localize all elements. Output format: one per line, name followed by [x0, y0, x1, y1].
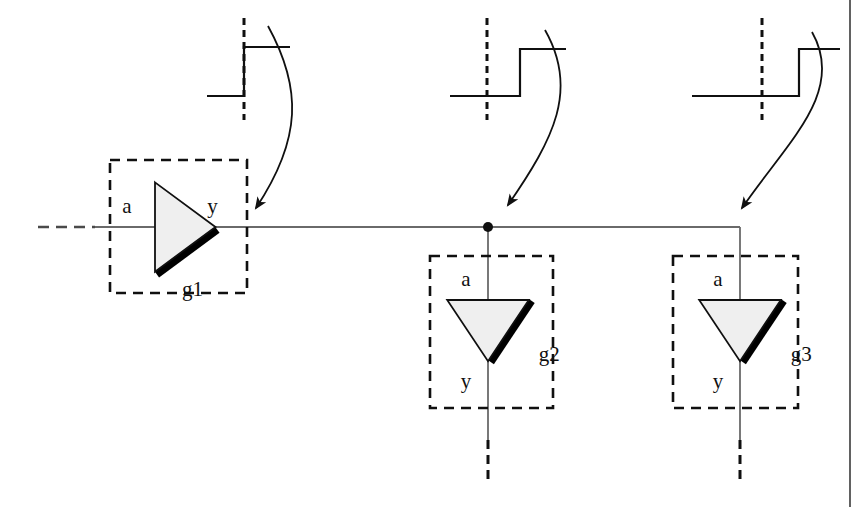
gate-g3[interactable]: a y g3: [673, 256, 812, 408]
gate-g3-output-label: y: [713, 369, 724, 393]
gate-g2-inverter-triangle: [447, 300, 529, 361]
arrow-waveform3-to-g3: [742, 32, 822, 208]
net-wires: [38, 222, 740, 482]
gate-g1-input-label: a: [122, 194, 132, 218]
gate-g3-name-label: g3: [791, 342, 812, 366]
arrow-waveform1-to-g1: [256, 26, 292, 208]
gate-g2-name-label: g2: [539, 342, 560, 366]
gate-g1[interactable]: a y g1: [110, 160, 247, 301]
wire-junction-dot: [483, 222, 493, 232]
waveform-g1-output: [207, 18, 290, 120]
gate-g2-output-label: y: [461, 369, 472, 393]
propagation-delay-diagram: a y g1 a y g2 a y g3: [0, 0, 860, 507]
gate-g3-inverter-triangle: [699, 300, 781, 361]
waveform-g3-output: [692, 18, 840, 120]
gate-g2-input-label: a: [461, 267, 471, 291]
gate-g2[interactable]: a y g2: [430, 256, 560, 408]
gate-g3-input-label: a: [713, 267, 723, 291]
gate-g1-output-label: y: [207, 194, 218, 218]
figure-canvas: a y g1 a y g2 a y g3: [0, 0, 860, 507]
waveform-g2-output: [450, 18, 566, 120]
arrow-waveform2-to-g2: [508, 30, 561, 205]
gate-g1-name-label: g1: [182, 277, 203, 301]
